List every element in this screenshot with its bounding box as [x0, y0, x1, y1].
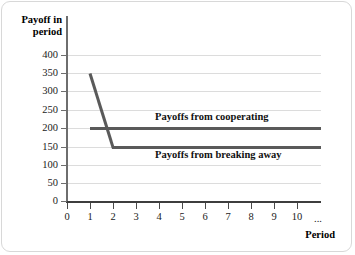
y-tick-label-0: 0	[22, 196, 58, 207]
y-tick-label-350: 350	[22, 68, 58, 79]
x-tick-9	[274, 203, 275, 209]
x-tick-label-ellipsis: ...	[307, 214, 329, 225]
x-tick-label-7: 7	[217, 212, 239, 223]
y-tick-label-50: 50	[22, 178, 58, 189]
y-tick-150	[61, 147, 67, 148]
x-tick-label-1: 1	[79, 212, 101, 223]
x-tick-label-8: 8	[240, 212, 262, 223]
x-tick-label-9: 9	[263, 212, 285, 223]
x-tick-10	[297, 203, 298, 209]
x-tick-label-0: 0	[56, 212, 78, 223]
y-tick-350	[61, 73, 67, 74]
gridline-400	[66, 55, 321, 56]
x-tick-label-6: 6	[194, 212, 216, 223]
x-tick-2	[113, 203, 114, 209]
y-tick-50	[61, 183, 67, 184]
x-tick-label-10: 10	[286, 212, 308, 223]
x-tick-label-4: 4	[148, 212, 170, 223]
y-tick-400	[61, 55, 67, 56]
series-line-cooperating	[90, 127, 321, 130]
x-axis-line	[66, 201, 321, 203]
y-tick-200	[61, 128, 67, 129]
x-tick-6	[205, 203, 206, 209]
y-tick-label-300: 300	[22, 86, 58, 97]
x-tick-label-2: 2	[102, 212, 124, 223]
y-tick-label-250: 250	[22, 105, 58, 116]
gridline-300	[66, 91, 321, 92]
x-axis-title: Period	[305, 229, 335, 241]
x-tick-label-5: 5	[171, 212, 193, 223]
x-tick-5	[182, 203, 183, 209]
y-tick-label-400: 400	[22, 50, 58, 61]
gridline-100	[66, 165, 321, 166]
x-tick-3	[136, 203, 137, 209]
y-tick-250	[61, 110, 67, 111]
y-tick-300	[61, 91, 67, 92]
series-label-cooperating: Payoffs from cooperating	[155, 112, 269, 123]
x-tick-8	[251, 203, 252, 209]
y-tick-label-100: 100	[22, 160, 58, 171]
y-tick-label-150: 150	[22, 142, 58, 153]
x-tick-7	[228, 203, 229, 209]
y-axis-title: Payoff inperiod	[4, 14, 62, 39]
chart-screenshot: Payoff inperiod 400 350 300 250 200 150 …	[0, 0, 355, 255]
gridline-50	[66, 183, 321, 184]
y-tick-label-200: 200	[22, 123, 58, 134]
x-tick-1	[90, 203, 91, 209]
gridline-350	[66, 73, 321, 74]
y-tick-0	[61, 201, 67, 202]
x-tick-4	[159, 203, 160, 209]
series-label-breaking-away: Payoffs from breaking away	[155, 150, 281, 161]
x-tick-label-3: 3	[125, 212, 147, 223]
chart-plot-area: Payoff inperiod 400 350 300 250 200 150 …	[0, 0, 355, 255]
y-axis-title-line2: period	[33, 26, 62, 37]
x-tick-0	[67, 203, 68, 209]
y-axis-title-line1: Payoff in	[21, 14, 62, 25]
y-tick-100	[61, 165, 67, 166]
